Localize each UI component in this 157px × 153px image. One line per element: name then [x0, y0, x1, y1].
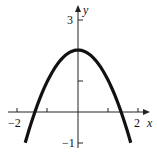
y-tick-label-3: 3	[67, 13, 73, 27]
x-tick-label-neg2: −2	[8, 116, 21, 130]
x-axis	[8, 108, 150, 115]
y-axis-arrow-icon	[75, 5, 81, 12]
y-axis	[75, 5, 83, 148]
x-axis-arrow-icon	[143, 109, 150, 115]
y-tick-label-neg1: −1	[62, 136, 75, 150]
parabola-chart: −2 2 x 3 y −1	[0, 0, 157, 153]
x-tick-label-2: 2	[134, 116, 140, 130]
y-axis-label: y	[82, 3, 89, 17]
x-axis-label: x	[146, 116, 153, 130]
